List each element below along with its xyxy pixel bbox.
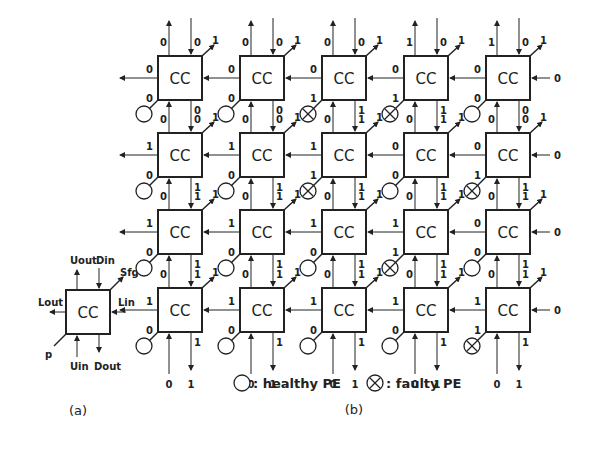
l-out-value: 1 — [146, 296, 153, 307]
cc-label: CC — [334, 302, 355, 320]
d-in-value: 0 — [522, 37, 529, 48]
sfg-value: 1 — [294, 189, 301, 200]
l-out-value: 1 — [310, 218, 317, 229]
healthy-pe-icon — [234, 375, 250, 391]
sfg-value: 1 — [458, 112, 465, 123]
sfg-value: 1 — [458, 35, 465, 46]
port-p-label: p — [45, 349, 52, 360]
d-in-value: 1 — [522, 269, 529, 280]
sfg-value: 1 — [540, 267, 547, 278]
sfg-value: 1 — [212, 189, 219, 200]
cc-array-diagram: CC Uout Din Sfg Lout Lin p Uin Dout (a) … — [0, 0, 597, 451]
figure-a-cc-cell: CC Uout Din Sfg Lout Lin p Uin Dout — [38, 255, 139, 372]
cc-label: CC — [334, 147, 355, 165]
p-value: 0 — [310, 325, 317, 336]
d-in-value: 0 — [194, 114, 201, 125]
u-out-value: 0 — [160, 37, 167, 48]
cc-label: CC — [498, 224, 519, 242]
u-out-value: 1 — [406, 37, 413, 48]
u-out-value: 0 — [488, 191, 495, 202]
d-out-value: 1 — [522, 337, 529, 348]
d-out-value: 1 — [358, 337, 365, 348]
figure-b-cc-grid: CC001000CC001000CC001101CC101101CC101000… — [120, 18, 561, 390]
figure-a-caption: (a) — [69, 403, 87, 418]
d-out-value: 1 — [194, 337, 201, 348]
cc-label: CC — [334, 224, 355, 242]
sfg-value: 1 — [212, 267, 219, 278]
d-in-value: 1 — [440, 114, 447, 125]
legend: : healthy PE : faulty PE — [234, 375, 462, 391]
d-out-value: 1 — [440, 337, 447, 348]
port-l-out-label: Lout — [38, 297, 63, 308]
cc-label: CC — [252, 147, 273, 165]
d-in-value: 1 — [440, 269, 447, 280]
l-out-value: 0 — [474, 218, 481, 229]
u-out-value: 0 — [324, 269, 331, 280]
d-in-value: 1 — [522, 191, 529, 202]
l-out-value: 1 — [228, 218, 235, 229]
l-in-value: 0 — [554, 150, 561, 161]
cc-label: CC — [170, 147, 191, 165]
l-out-value: 1 — [146, 141, 153, 152]
p-value: 0 — [228, 93, 235, 104]
u-in-value: 0 — [166, 379, 173, 390]
cc-label: CC — [170, 302, 191, 320]
d-in-value: 1 — [194, 269, 201, 280]
d-out-value: 1 — [276, 337, 283, 348]
p-value: 0 — [228, 247, 235, 258]
p-value: 1 — [474, 170, 481, 181]
p-value: 0 — [146, 170, 153, 181]
p-value: 0 — [392, 325, 399, 336]
p-value: 1 — [474, 325, 481, 336]
port-d-out-label: Dout — [94, 361, 121, 372]
p-value: 0 — [228, 170, 235, 181]
sfg-value: 1 — [540, 35, 547, 46]
cc-label: CC — [252, 70, 273, 88]
cc-label: CC — [78, 304, 99, 322]
port-d-in-label: Din — [96, 255, 115, 266]
l-in-value: 0 — [554, 305, 561, 316]
d-in-value: 0 — [440, 37, 447, 48]
d-in-value: 1 — [276, 191, 283, 202]
cc-label: CC — [416, 70, 437, 88]
cc-label: CC — [252, 302, 273, 320]
l-out-value: 1 — [474, 296, 481, 307]
d-in-value: 1 — [276, 269, 283, 280]
cc-label: CC — [498, 70, 519, 88]
d-in-value: 1 — [194, 191, 201, 202]
d-out-bottom-value: 1 — [352, 379, 359, 390]
cc-label: CC — [416, 302, 437, 320]
cc-label: CC — [170, 224, 191, 242]
l-out-value: 1 — [392, 218, 399, 229]
faulty-pe-icon — [367, 375, 383, 391]
l-out-value: 1 — [392, 296, 399, 307]
p-value: 1 — [392, 93, 399, 104]
l-out-value: 0 — [310, 64, 317, 75]
d-in-value: 0 — [276, 37, 283, 48]
l-out-value: 0 — [474, 64, 481, 75]
sfg-value: 1 — [540, 112, 547, 123]
d-in-value: 1 — [358, 114, 365, 125]
cc-label: CC — [416, 147, 437, 165]
p-value: 1 — [310, 93, 317, 104]
l-out-value: 1 — [228, 141, 235, 152]
u-out-value: 0 — [242, 191, 249, 202]
u-out-value: 0 — [488, 114, 495, 125]
u-in-value: 0 — [494, 379, 501, 390]
l-out-value: 1 — [310, 296, 317, 307]
l-out-value: 0 — [228, 64, 235, 75]
sfg-value: 1 — [294, 267, 301, 278]
p-value: 1 — [310, 170, 317, 181]
u-out-value: 1 — [488, 37, 495, 48]
u-out-value: 0 — [242, 269, 249, 280]
port-u-in-label: Uin — [70, 361, 89, 372]
p-value: 0 — [474, 247, 481, 258]
u-out-value: 0 — [324, 114, 331, 125]
sfg-value: 1 — [458, 267, 465, 278]
legend-healthy-label: : healthy PE — [253, 376, 341, 391]
p-value: 0 — [392, 170, 399, 181]
legend-faulty-label: : faulty PE — [386, 376, 462, 391]
u-out-value: 0 — [160, 114, 167, 125]
d-in-value: 0 — [358, 37, 365, 48]
cc-label: CC — [498, 147, 519, 165]
